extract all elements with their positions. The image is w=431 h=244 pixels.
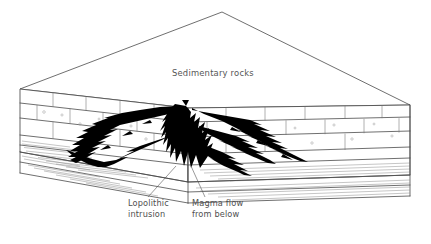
label-lopolithic-intrusion-line1: Lopolithic <box>128 198 169 208</box>
top-surface <box>20 12 410 108</box>
block-diagram-svg: Sedimentary rocks Lopolithic intrusion M… <box>0 0 431 244</box>
label-sedimentary-rocks: Sedimentary rocks <box>172 68 254 78</box>
label-lopolithic-intrusion-line2: intrusion <box>128 209 165 219</box>
label-magma-flow-line1: Magma flow <box>192 198 243 208</box>
label-magma-flow-line2: from below <box>192 209 240 219</box>
top-surface-group <box>20 12 410 108</box>
geology-block-diagram: Sedimentary rocks Lopolithic intrusion M… <box>0 0 431 244</box>
left-face-group <box>20 89 188 203</box>
